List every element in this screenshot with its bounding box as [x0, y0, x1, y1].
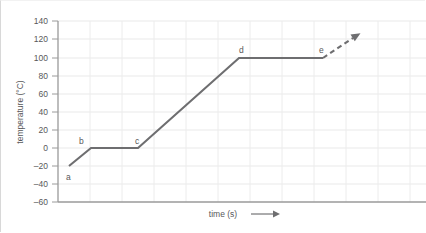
point-label-e: e — [319, 45, 324, 55]
point-label-c: c — [135, 136, 140, 146]
point-label-a: a — [66, 172, 71, 182]
y-tick-label-0: 0 — [43, 143, 48, 153]
x-axis-direction-arrow-icon — [251, 211, 280, 218]
y-axis-title: temperature (°C) — [15, 80, 25, 144]
y-tick-labels: 140 120 100 80 60 40 20 0 –20 –40 –60 — [34, 16, 48, 207]
y-tick-label-40: 40 — [39, 107, 49, 117]
y-tick-label-20: 20 — [39, 125, 49, 135]
continuation-arrowhead-icon — [351, 33, 361, 41]
y-tick-label-60: 60 — [39, 89, 49, 99]
x-axis-title: time (s) — [209, 209, 238, 219]
y-tick-label-neg20: –20 — [34, 161, 48, 171]
y-tick-label-neg60: –60 — [34, 197, 48, 207]
y-tick-label-80: 80 — [39, 71, 49, 81]
y-tick-label-140: 140 — [34, 16, 48, 26]
y-tick-label-100: 100 — [34, 53, 48, 63]
y-tick-label-neg40: –40 — [34, 179, 48, 189]
heating-curve-dashed-continuation — [323, 38, 353, 58]
y-tick-marks — [52, 21, 58, 202]
y-tick-label-120: 120 — [34, 34, 48, 44]
point-label-d: d — [239, 45, 244, 55]
temperature-time-chart: 140 120 100 80 60 40 20 0 –20 –40 –60 te… — [1, 1, 426, 233]
point-label-b: b — [79, 136, 84, 146]
